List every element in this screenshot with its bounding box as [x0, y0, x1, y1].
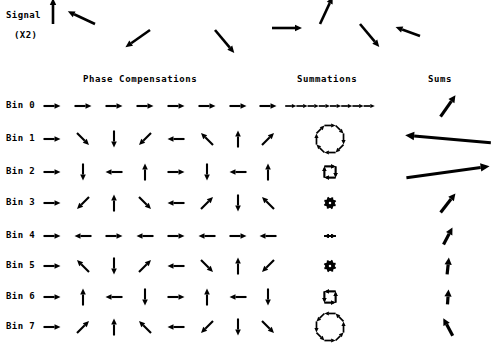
phase-compensation-arrow	[77, 260, 89, 272]
summation-segment	[316, 313, 324, 321]
summation-segment	[319, 104, 330, 108]
summation-segment	[341, 104, 352, 108]
phase-compensation-arrow	[75, 103, 92, 109]
sum-vector	[405, 132, 491, 143]
summation-segment	[314, 133, 318, 144]
summation-chain	[324, 260, 335, 271]
diagram-canvas	[0, 0, 496, 354]
phase-compensation-arrow	[260, 103, 277, 109]
sum-vector	[445, 258, 452, 275]
sum-vector	[443, 318, 452, 336]
phase-compensation-arrow	[44, 324, 61, 330]
phase-compensation-arrow	[262, 260, 274, 272]
phase-compensation-arrow	[44, 200, 61, 206]
summation-chain	[314, 311, 345, 342]
summation-segment	[296, 104, 307, 108]
phase-compensation-arrow	[262, 133, 274, 145]
summation-chain	[322, 164, 337, 179]
summation-segment	[324, 289, 335, 293]
phase-compensation-arrow	[137, 233, 154, 239]
summation-segment	[324, 311, 335, 315]
phase-compensation-arrow	[204, 164, 210, 181]
phase-compensation-arrow	[199, 103, 216, 109]
summation-segment	[324, 338, 335, 342]
summation-segment	[316, 125, 324, 133]
phase-compensation-arrow	[77, 133, 89, 145]
phase-compensation-arrow	[265, 289, 271, 306]
summation-segment	[336, 125, 344, 133]
sum-vector	[444, 228, 453, 245]
phase-compensation-arrow	[80, 289, 86, 306]
phase-compensation-arrow	[230, 103, 247, 109]
summation-segment	[324, 123, 335, 127]
summation-chain	[314, 123, 345, 154]
phase-compensation-arrow	[230, 233, 247, 239]
phase-compensation-arrow	[139, 260, 151, 272]
summation-segment	[324, 164, 335, 168]
summation-segment	[352, 104, 363, 108]
phase-compensation-arrow	[204, 289, 210, 306]
phase-compensation-arrow	[106, 169, 123, 175]
phase-compensation-arrow	[168, 103, 185, 109]
phase-compensation-arrow	[139, 133, 151, 145]
sum-vector	[406, 163, 489, 178]
phase-compensation-arrow	[44, 169, 61, 175]
phase-compensation-arrow	[168, 263, 185, 269]
phase-compensation-arrow	[44, 103, 61, 109]
summation-segment	[341, 133, 345, 144]
sum-vector	[444, 290, 451, 305]
phase-compensation-arrow	[235, 319, 241, 336]
sum-vector	[441, 95, 456, 116]
phase-compensation-arrow	[230, 294, 247, 300]
summation-segment	[324, 150, 335, 154]
phase-compensation-arrow	[77, 197, 89, 209]
sum-vector	[441, 194, 456, 213]
summation-segment	[308, 104, 319, 108]
summation-segment	[336, 333, 344, 341]
phase-compensation-arrow	[201, 260, 213, 272]
phase-compensation-arrow	[168, 324, 185, 330]
summation-segment	[322, 166, 326, 177]
summation-segment	[324, 176, 335, 180]
phase-compensation-arrow	[201, 133, 213, 145]
summation-segment	[334, 291, 338, 302]
phase-compensation-arrow	[168, 294, 185, 300]
phase-compensation-arrow	[80, 164, 86, 181]
phase-compensation-arrow	[106, 294, 123, 300]
phase-compensation-arrow	[75, 233, 92, 239]
phase-compensation-arrow	[137, 103, 154, 109]
summation-segment	[324, 234, 335, 238]
phase-compensation-arrow	[106, 233, 123, 239]
summation-segment	[322, 291, 326, 302]
phase-compensation-arrow	[199, 233, 216, 239]
phase-compensation-arrow	[201, 197, 213, 209]
summation-segment	[336, 145, 344, 153]
phase-compensation-arrow	[106, 103, 123, 109]
summation-segment	[364, 104, 375, 108]
summation-segment	[316, 145, 324, 153]
summation-segment	[316, 333, 324, 341]
summation-segment	[334, 166, 338, 177]
phase-compensation-arrow	[44, 263, 61, 269]
summation-segment	[314, 321, 318, 332]
phase-compensation-arrow	[77, 321, 89, 333]
summation-chain	[324, 234, 335, 238]
summation-segment	[324, 301, 335, 305]
phase-compensation-arrow	[111, 195, 117, 212]
phase-compensation-arrow	[111, 258, 117, 275]
phase-compensation-arrow	[44, 136, 61, 142]
phase-compensation-arrow	[201, 321, 213, 333]
phase-compensation-arrow	[262, 321, 274, 333]
phase-compensation-arrow	[235, 131, 241, 148]
phase-compensation-arrow	[262, 197, 274, 209]
phase-compensation-arrow	[142, 289, 148, 306]
phase-compensation-arrow	[168, 169, 185, 175]
phase-compensation-arrow	[265, 164, 271, 181]
phase-compensation-arrow	[260, 233, 277, 239]
phase-compensation-arrow	[44, 294, 61, 300]
phase-compensation-arrow	[139, 321, 151, 333]
phase-compensation-arrow	[111, 319, 117, 336]
summation-chain	[285, 104, 375, 108]
phase-compensation-arrow	[44, 233, 61, 239]
summation-segment	[341, 321, 345, 332]
